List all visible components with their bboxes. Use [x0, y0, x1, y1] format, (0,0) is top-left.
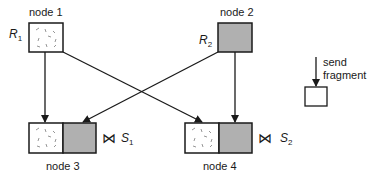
join-icon: ⋈: [258, 132, 272, 144]
legend-send-label: send: [323, 56, 347, 68]
node3-box: [29, 123, 96, 153]
node4-box: [185, 123, 252, 153]
node1-box: [29, 23, 63, 52]
result-s2-label: S2: [280, 132, 292, 149]
join-icon: ⋈: [102, 132, 116, 144]
node4-label: node 4: [203, 160, 237, 172]
legend-fragment-box: [305, 87, 327, 106]
node3-label: node 3: [46, 160, 80, 172]
node1-label: node 1: [29, 6, 63, 18]
arrow-node1-to-node4: [63, 52, 202, 122]
result-s1-label: S1: [121, 132, 133, 149]
node2-box: [218, 23, 252, 52]
diagram-canvas: [0, 0, 375, 178]
node2-label: node 2: [220, 6, 254, 18]
legend-fragment-label: fragment: [323, 69, 366, 81]
arrow-node2-to-node3: [83, 52, 218, 122]
relation-r2-label: R2: [199, 34, 212, 51]
relation-r1-label: R1: [9, 28, 22, 45]
